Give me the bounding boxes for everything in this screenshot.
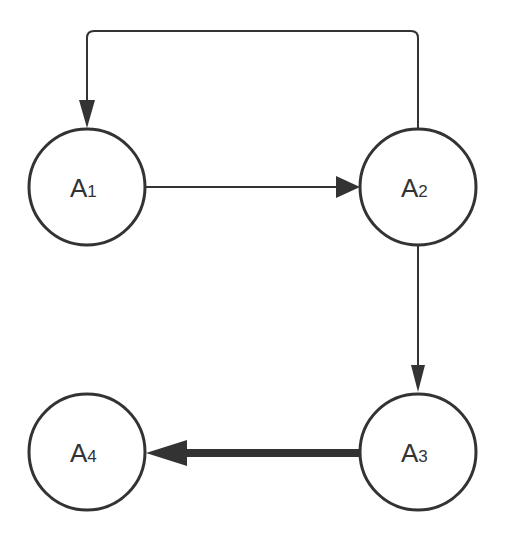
arrowhead-icon xyxy=(79,100,95,128)
edge-a1-to-a2 xyxy=(145,176,360,198)
arrowhead-icon xyxy=(146,440,187,466)
node-a1: A1 xyxy=(29,129,145,245)
edge-a2-to-a3 xyxy=(411,245,425,392)
node-a4: A4 xyxy=(29,394,145,510)
edge-a2-to-a1 xyxy=(79,31,418,129)
node-a3: A3 xyxy=(360,394,476,510)
diagram-canvas: A1 A2 A3 A4 xyxy=(0,0,512,541)
edge-a3-to-a4 xyxy=(146,440,360,466)
arrowhead-icon xyxy=(336,176,360,198)
node-a2: A2 xyxy=(360,129,476,245)
arrowhead-icon xyxy=(411,365,425,392)
